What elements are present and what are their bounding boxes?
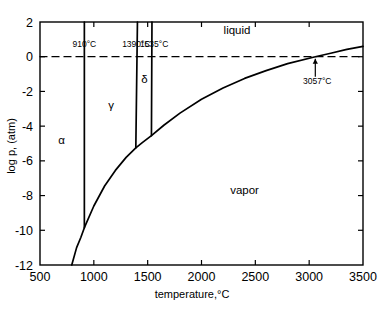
vapor-region-label: vapor — [230, 184, 259, 196]
delta-region-label: δ — [141, 73, 147, 85]
plot-frame — [40, 22, 363, 265]
x-axis-tick-label: 3500 — [349, 270, 377, 284]
y-axis-tick-label: -6 — [22, 154, 33, 168]
x-axis-tick-label: 3000 — [295, 270, 323, 284]
delta-liquid-temperature-label: 1535°C — [140, 39, 168, 49]
y-axis-tick-label: 2 — [26, 16, 33, 30]
alpha-region-label: α — [58, 134, 65, 146]
x-axis-tick-label: 1500 — [134, 270, 162, 284]
phase-diagram-figure: 50010001500200025003000350020-2-4-6-8-10… — [0, 0, 384, 311]
critical-boiling-point-label: 3057°C — [303, 76, 331, 86]
y-axis-tick-label: -12 — [15, 259, 33, 273]
y-axis-title: log p, (atm) — [5, 101, 17, 191]
plot-canvas: 50010001500200025003000350020-2-4-6-8-10… — [0, 0, 384, 311]
y-axis-tick-label: -8 — [22, 189, 33, 203]
x-axis-tick-label: 1000 — [80, 270, 108, 284]
y-axis-tick-label: -4 — [22, 120, 33, 134]
liquid-region-label: liquid — [224, 24, 251, 36]
y-axis-tick-label: -2 — [22, 85, 33, 99]
x-axis-tick-label: 2500 — [241, 270, 269, 284]
y-axis-tick-label: 0 — [26, 50, 33, 64]
critical-point-arrow-head — [313, 59, 318, 64]
x-axis-tick-label: 2000 — [188, 270, 216, 284]
x-axis-title: temperature,°C — [0, 288, 384, 300]
alpha-gamma-temperature-label: 910°C — [72, 39, 96, 49]
gamma-region-label: γ — [108, 99, 114, 111]
y-axis-tick-label: -10 — [15, 224, 33, 238]
